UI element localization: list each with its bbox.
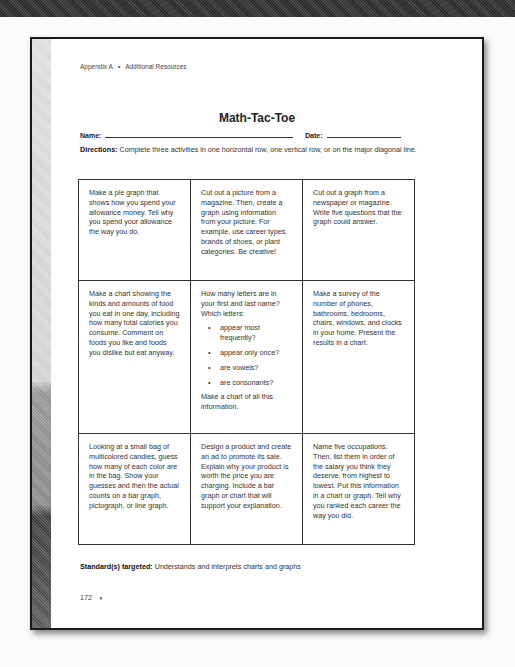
- grid-row: Make a pie graph that shows how you spen…: [79, 180, 415, 281]
- bullet-icon: •: [208, 348, 211, 358]
- grid-cell: Looking at a small bag of multicolored c…: [79, 434, 191, 545]
- name-field[interactable]: [105, 130, 293, 138]
- standard-text: Understands and interprets charts and gr…: [153, 562, 301, 571]
- worksheet-page: Appendix A•Additional Resources Math-Tac…: [30, 37, 484, 630]
- directions: Directions: Complete three activities in…: [80, 145, 430, 155]
- activity-text: Design a product and create an ad to pro…: [201, 442, 291, 510]
- list-item: •appear most frequently?: [214, 323, 292, 343]
- grid-cell: Cut out a graph from a newspaper or maga…: [303, 180, 415, 281]
- activity-text: Make a survey of the number of phones, b…: [313, 289, 402, 347]
- activity-text: Make a chart showing the kinds and amoun…: [89, 289, 180, 357]
- list-item-text: appear only once?: [220, 348, 279, 357]
- activity-text: Looking at a small bag of multicolored c…: [89, 442, 179, 510]
- list-item-text: appear most frequently?: [220, 323, 260, 342]
- standard-label: Standard(s) targeted:: [80, 562, 153, 571]
- page-edge-shadow: [32, 39, 51, 628]
- list-item: •are vowels?: [214, 363, 292, 373]
- bullet-icon: •: [208, 363, 211, 373]
- list-item: •appear only once?: [214, 348, 292, 358]
- name-date-row: Name: Date:: [80, 130, 430, 139]
- page-title: Math-Tac-Toe: [32, 111, 482, 125]
- list-item-text: are vowels?: [220, 363, 258, 372]
- activity-intro: How many letters are in your first and l…: [201, 289, 292, 318]
- grid-cell: How many letters are in your first and l…: [191, 281, 303, 434]
- activity-text: Make a pie graph that shows how you spen…: [89, 188, 176, 236]
- grid-row: Looking at a small bag of multicolored c…: [79, 434, 415, 545]
- running-head: Appendix A•Additional Resources: [80, 63, 187, 70]
- grid-cell: Design a product and create an ad to pro…: [191, 434, 303, 545]
- footer-dot-icon: ●: [99, 595, 103, 601]
- bullet-icon: •: [208, 378, 211, 388]
- directions-text: Complete three activities in one horizon…: [118, 145, 417, 154]
- directions-label: Directions:: [80, 145, 118, 154]
- name-label: Name:: [80, 132, 101, 139]
- running-head-section: Appendix A: [80, 63, 113, 70]
- date-label: Date:: [305, 132, 323, 139]
- math-tac-toe-grid: Make a pie graph that shows how you spen…: [78, 179, 415, 545]
- grid-cell: Name five occupations. Then, list them i…: [303, 434, 415, 545]
- grid-cell: Cut out a picture from a magazine. Then,…: [191, 180, 303, 281]
- activity-text: Cut out a graph from a newspaper or maga…: [313, 188, 402, 226]
- running-head-title: Additional Resources: [125, 63, 186, 70]
- date-group: Date:: [305, 130, 401, 139]
- activity-bullet-list: •appear most frequently? •appear only on…: [201, 323, 292, 387]
- activity-text: Cut out a picture from a magazine. Then,…: [201, 188, 287, 256]
- date-field[interactable]: [327, 130, 401, 138]
- activity-text: Name five occupations. Then, list them i…: [313, 442, 401, 520]
- list-item: •are consonants?: [214, 378, 292, 388]
- top-scan-bar: [0, 0, 515, 17]
- grid-row: Make a chart showing the kinds and amoun…: [79, 281, 415, 434]
- standard-targeted: Standard(s) targeted: Understands and in…: [80, 562, 301, 571]
- activity-outro: Make a chart of all this information.: [201, 392, 292, 412]
- list-item-text: are consonants?: [220, 378, 273, 387]
- page-number: 172: [80, 593, 92, 602]
- bullet-icon: •: [208, 323, 211, 333]
- grid-cell: Make a pie graph that shows how you spen…: [79, 180, 191, 281]
- running-head-separator: •: [118, 63, 120, 70]
- page-footer: 172●: [80, 593, 103, 602]
- grid-cell: Make a survey of the number of phones, b…: [303, 281, 415, 434]
- grid-cell: Make a chart showing the kinds and amoun…: [79, 281, 191, 434]
